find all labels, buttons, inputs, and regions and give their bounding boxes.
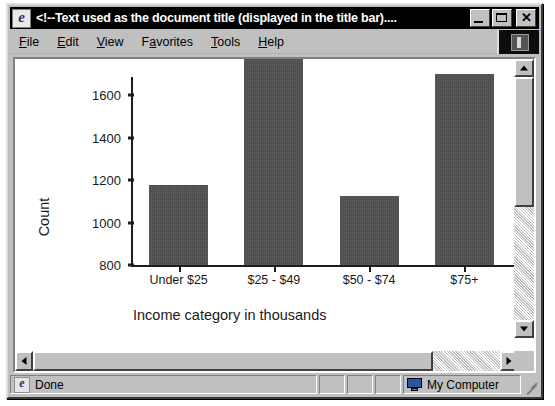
monitor-stand [411,388,418,391]
status-panel-4 [375,375,401,394]
y-axis-tick [128,94,134,97]
security-zone-label: My Computer [427,378,499,392]
client-area: 8001000120014001600Under $25$25 - $49$50… [10,54,539,376]
minimize-button[interactable] [470,9,490,27]
close-icon: ✕ [517,9,535,26]
status-bar: Done My Computer [10,374,539,395]
ie-animated-logo-icon [497,30,539,54]
y-axis-tick-label: 1200 [92,173,121,188]
window-controls: ✕ [470,9,537,27]
y-axis-tick [128,221,134,224]
x-axis-title: Income category in thousands [133,307,326,323]
monitor-screen [407,378,422,388]
menu-item-file[interactable]: File [10,33,48,51]
scroll-left-button[interactable] [15,351,33,371]
bar [149,185,208,265]
maximize-button[interactable] [492,9,512,27]
y-axis-tick [128,136,134,139]
maximize-icon [496,13,507,22]
title-bar[interactable]: e <!--Text used as the document title (d… [10,7,539,29]
chevron-left-icon [22,357,27,365]
y-axis-title: Count [36,198,52,237]
ie-logo-glyph: e [13,9,30,27]
status-message: Done [35,378,64,392]
minimize-icon [474,21,483,24]
x-axis-category-label: $75+ [450,273,478,287]
status-panel-2 [319,375,345,394]
bar [435,74,494,265]
x-axis-tick [274,267,276,272]
x-axis-tick [369,267,371,272]
y-axis-tick-label: 1000 [92,215,121,230]
bar [244,59,303,265]
horizontal-scrollbar[interactable] [15,351,518,371]
chevron-right-icon [507,357,512,365]
x-axis-category-label: $50 - $74 [343,273,396,287]
ie-logo-icon: e [12,9,31,28]
menu-item-tools[interactable]: Tools [202,33,249,51]
vertical-scrollbar-thumb[interactable] [514,77,534,207]
y-axis-line [131,77,133,267]
resize-grip[interactable] [523,375,539,394]
menu-item-edit[interactable]: Edit [48,33,88,51]
scroll-up-button[interactable] [514,59,534,77]
x-axis-line [131,265,518,267]
menu-bar: File Edit View Favorites Tools Help [10,30,539,54]
menu-item-view[interactable]: View [88,33,133,51]
bar [340,196,399,265]
y-axis-tick-label: 1600 [92,88,121,103]
monitor-icon [407,378,422,391]
status-panel-3 [347,375,373,394]
horizontal-scrollbar-thumb[interactable] [33,351,433,371]
close-button[interactable]: ✕ [516,9,536,27]
status-message-panel: Done [10,375,317,394]
y-axis-tick [128,264,134,267]
chevron-down-icon [520,327,528,332]
vertical-scrollbar[interactable] [514,59,534,338]
ie-logo-inner [511,34,529,51]
x-axis-tick [179,267,181,272]
x-axis-tick [464,267,466,272]
scrollbar-corner [514,351,534,371]
window-title: <!--Text used as the document title (dis… [36,11,470,25]
y-axis-tick-label: 800 [99,258,121,273]
x-axis-category-label: $25 - $49 [247,273,300,287]
y-axis-tick [128,179,134,182]
bar-chart: 8001000120014001600Under $25$25 - $49$50… [15,59,518,338]
document-viewport: 8001000120014001600Under $25$25 - $49$50… [15,59,518,338]
y-axis-tick-label: 1400 [92,130,121,145]
menu-item-favorites[interactable]: Favorites [133,33,202,51]
security-zone-panel[interactable]: My Computer [403,375,521,394]
chevron-up-icon [520,66,528,71]
menu-item-help[interactable]: Help [249,33,293,51]
document-frame: 8001000120014001600Under $25$25 - $49$50… [13,57,536,373]
browser-window: e <!--Text used as the document title (d… [6,3,543,399]
x-axis-category-label: Under $25 [149,273,207,287]
ie-small-icon [14,377,30,393]
scroll-down-button[interactable] [514,320,534,338]
